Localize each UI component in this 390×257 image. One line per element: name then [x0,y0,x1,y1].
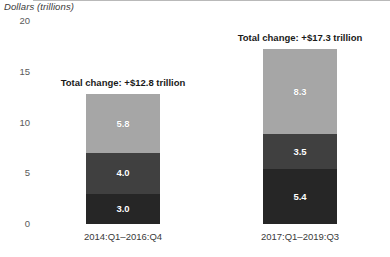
bar-segment-value-label: 3.5 [293,147,306,157]
bar-segment-top-segment[interactable]: 5.8 [86,94,160,153]
bar-segment-bottom-segment[interactable]: 5.4 [263,169,337,224]
y-axis-tick-0: 0 [6,218,30,229]
bar-segment-bottom-segment[interactable]: 3.0 [86,194,160,224]
plot-area: 05101520 5.84.03.08.33.55.4 2014:Q1–2016… [0,0,390,257]
y-axis-tick-10: 10 [6,117,30,128]
bar-segment-value-label: 5.8 [116,119,129,129]
total-change-left: Total change: +$12.8 trillion [33,77,213,88]
bar-segment-value-label: 8.3 [293,87,306,97]
bar-segment-middle-segment[interactable]: 3.5 [263,134,337,170]
bar-segment-value-label: 3.0 [116,204,129,214]
x-axis-category-label-left: 2014:Q1–2016:Q4 [53,231,193,242]
bar-segment-value-label: 4.0 [116,168,129,178]
bar-segment-middle-segment[interactable]: 4.0 [86,153,160,194]
y-axis-tick-20: 20 [6,15,30,26]
zero-baseline [33,0,390,1]
bar-segment-top-segment[interactable]: 8.3 [263,49,337,133]
bar-stack-left[interactable]: 5.84.03.0 [86,94,160,224]
total-change-right: Total change: +$17.3 trillion [210,32,390,43]
stacked-bar-chart: Dollars (trillions) 05101520 5.84.03.08.… [0,0,390,257]
y-axis-tick-15: 15 [6,66,30,77]
x-axis-category-label-right: 2017:Q1–2019:Q3 [230,231,370,242]
y-axis-tick-5: 5 [6,167,30,178]
bar-segment-value-label: 5.4 [293,192,306,202]
bar-stack-right[interactable]: 8.33.55.4 [263,49,337,224]
